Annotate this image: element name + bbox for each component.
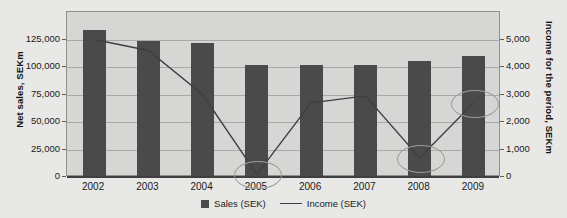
x-label-2002: 2002 [70,181,116,192]
y-tick-right-2000: 2,000 [506,115,558,126]
y-tick-left-125000: 125,000 [8,33,60,44]
y-tick-right-4000: 4,000 [506,60,558,71]
y-tick-right-3000: 3,000 [506,88,558,99]
x-label-2004: 2004 [179,181,225,192]
legend-item-sales[interactable]: Sales (SEK) [201,198,266,209]
square-swatch-icon [201,200,209,208]
highlight-2008-income-dip [397,145,445,173]
line-swatch-icon [280,203,302,204]
y-tick-left-75000: 75,000 [8,88,60,99]
x-label-2006: 2006 [287,181,333,192]
y-tick-left-100000: 100,000 [8,60,60,71]
highlight-2009-income-recovery [451,90,499,118]
plot-area [66,11,500,176]
legend-item-income[interactable]: Income (SEK) [280,198,366,209]
y-tick-left-50000: 50,000 [8,115,60,126]
x-label-2003: 2003 [124,181,170,192]
chart-root: Net sales, SEKm Income for the period, S… [0,0,567,218]
x-label-2009: 2009 [450,181,496,192]
y-tick-right-1000: 1,000 [506,143,558,154]
y-tick-right-0: 0 [506,170,558,181]
legend-label: Sales (SEK) [214,198,266,209]
y-tick-right-5000: 5,000 [506,33,558,44]
chart-legend: Sales (SEK)Income (SEK) [0,198,567,209]
y-tick-left-0: 0 [8,170,60,181]
x-label-2007: 2007 [341,181,387,192]
x-label-2008: 2008 [396,181,442,192]
y-tick-left-25000: 25,000 [8,143,60,154]
legend-label: Income (SEK) [307,198,366,209]
y-tick-mark-left [62,176,66,177]
